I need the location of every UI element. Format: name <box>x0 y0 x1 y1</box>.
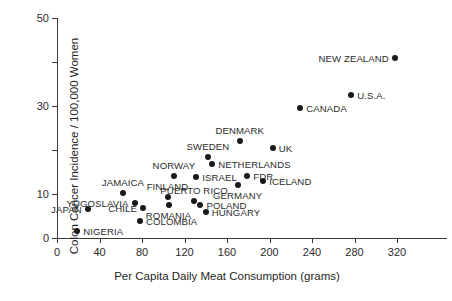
data-point[interactable] <box>205 154 211 160</box>
x-axis-title: Per Capita Daily Meat Consumption (grams… <box>114 270 340 282</box>
data-point-label: HUNGARY <box>212 206 261 217</box>
data-point[interactable] <box>171 173 177 179</box>
data-point-label: NIGERIA <box>83 226 123 237</box>
data-point-label: ISRAEL <box>202 172 237 183</box>
data-point-label: GERMANY <box>213 190 262 201</box>
data-point[interactable] <box>237 138 243 144</box>
data-point[interactable] <box>197 202 203 208</box>
x-tick-label-320: 320 <box>388 246 406 258</box>
data-point-label: NETHERLANDS <box>218 159 291 170</box>
data-point[interactable] <box>203 209 209 215</box>
data-point-label: DENMARK <box>215 125 264 136</box>
data-point-label: NORWAY <box>153 160 196 171</box>
y-axis-title: Colon Cancer Incidence / 100,000 Women <box>68 38 80 255</box>
data-point[interactable] <box>191 198 197 204</box>
x-tick-label-120: 120 <box>175 246 193 258</box>
x-tick-40 <box>100 238 101 243</box>
data-point[interactable] <box>348 92 354 98</box>
x-tick-label-160: 160 <box>218 246 236 258</box>
data-point[interactable] <box>392 55 398 61</box>
data-point[interactable] <box>244 173 250 179</box>
x-tick-label-0: 0 <box>54 246 60 258</box>
data-point-label: JAMAICA <box>102 177 144 188</box>
x-tick-label-80: 80 <box>136 246 148 258</box>
x-tick-label-40: 40 <box>93 246 105 258</box>
x-tick-80 <box>142 238 143 243</box>
y-axis-title-wrapper: Colon Cancer Incidence / 100,000 Women <box>75 18 76 238</box>
scatter-chart: 0103050 04080120160200240280320 NIGERIAJ… <box>0 0 452 301</box>
x-tick-320 <box>397 238 398 243</box>
x-axis-line <box>57 238 447 239</box>
data-point-label: SWEDEN <box>187 141 230 152</box>
y-tick-label-30: 30 <box>37 100 49 112</box>
y-tick-20 <box>52 150 57 151</box>
data-point-label: ICELAND <box>269 175 311 186</box>
data-point[interactable] <box>270 145 276 151</box>
x-tick-label-240: 240 <box>303 246 321 258</box>
data-point-label: ROMANIA <box>146 210 191 221</box>
y-tick-30 <box>52 106 57 107</box>
x-tick-label-200: 200 <box>260 246 278 258</box>
x-tick-0 <box>57 238 58 243</box>
x-tick-240 <box>312 238 313 243</box>
data-point[interactable] <box>260 178 266 184</box>
x-tick-280 <box>355 238 356 243</box>
data-point[interactable] <box>137 218 143 224</box>
x-tick-200 <box>270 238 271 243</box>
data-point-label: UK <box>279 142 293 153</box>
y-tick-40 <box>52 62 57 63</box>
x-tick-120 <box>185 238 186 243</box>
x-tick-160 <box>227 238 228 243</box>
data-point[interactable] <box>209 161 215 167</box>
y-tick-label-0: 0 <box>43 232 49 244</box>
x-tick-label-280: 280 <box>345 246 363 258</box>
data-point[interactable] <box>235 182 241 188</box>
y-tick-50 <box>52 18 57 19</box>
data-point[interactable] <box>297 105 303 111</box>
y-tick-label-10: 10 <box>37 188 49 200</box>
plot-area: 0103050 04080120160200240280320 NIGERIAJ… <box>57 18 397 238</box>
data-point[interactable] <box>120 190 126 196</box>
data-point-label: CANADA <box>306 102 347 113</box>
data-point-label: CHILE <box>108 203 137 214</box>
y-tick-label-50: 50 <box>37 12 49 24</box>
y-tick-10 <box>52 194 57 195</box>
data-point[interactable] <box>166 202 172 208</box>
data-point[interactable] <box>193 174 199 180</box>
data-point-label: U.S.A. <box>357 89 385 100</box>
data-point-label: NEW ZEALAND <box>318 52 388 63</box>
